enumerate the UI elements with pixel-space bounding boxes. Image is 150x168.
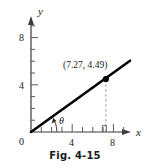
origin-label: 0 [19, 136, 24, 147]
ray-line [31, 61, 130, 132]
x-tick-label-8: 8 [110, 137, 115, 148]
angle-theta-label: θ [59, 115, 64, 126]
x-axis-ticks [41, 124, 123, 132]
point-coordinate-label: (7.27, 4.49) [63, 60, 107, 71]
x-axis-label: x [135, 126, 141, 138]
figure-caption: Fig. 4-15 [0, 150, 150, 161]
y-axis-label: y [37, 5, 43, 17]
y-axis-ticks [31, 26, 38, 120]
y-tick-label-8: 8 [19, 32, 24, 43]
coordinate-plot: y x 0 4 8 4 8 (7.27, 4.49) θ [0, 0, 150, 168]
y-tick-label-4: 4 [19, 80, 24, 91]
y-axis-arrowhead [28, 16, 34, 25]
x-tick-label-4: 4 [69, 137, 74, 148]
data-point-marker[interactable] [103, 76, 109, 82]
figure-container: y x 0 4 8 4 8 (7.27, 4.49) θ Fig. 4-15 [0, 0, 150, 168]
